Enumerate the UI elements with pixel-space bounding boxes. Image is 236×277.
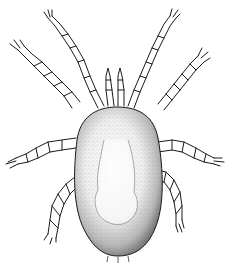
- leg-1-left: [44, 10, 104, 108]
- palps: [106, 68, 124, 106]
- leg-1-right: [128, 9, 180, 108]
- leg-2-left: [10, 40, 80, 108]
- mite-drawing: [0, 0, 236, 277]
- leg-3-right: [158, 140, 224, 166]
- leg-3-left: [6, 138, 76, 168]
- figure-caption: [0, 269, 236, 277]
- mite-body: [75, 107, 163, 263]
- leg-4-left: [44, 176, 78, 244]
- mite-illustration: [0, 0, 236, 277]
- leg-2-right: [158, 48, 210, 110]
